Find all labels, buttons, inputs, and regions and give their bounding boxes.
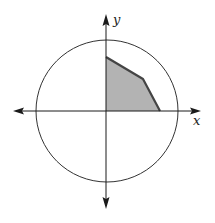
coordinate-plane-diagram: y x xyxy=(0,0,215,223)
x-axis-label: x xyxy=(193,113,201,128)
shaded-region xyxy=(106,57,160,111)
y-axis-label: y xyxy=(112,12,121,27)
